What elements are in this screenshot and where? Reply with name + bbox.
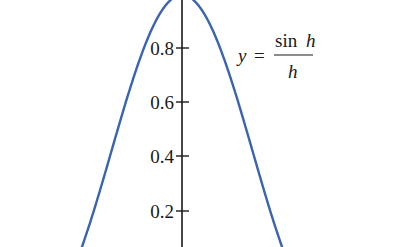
equation-equals: = <box>254 45 265 66</box>
equation-label: y = sin h h <box>236 30 315 82</box>
tick-label-0-6: 0.6 <box>150 92 174 113</box>
tick-label-0-4: 0.4 <box>150 146 174 167</box>
numerator-fn: sin <box>275 30 298 51</box>
tick-label-0-8: 0.8 <box>150 38 174 59</box>
equation-numerator: sin h <box>275 30 315 51</box>
equation-lhs: y <box>236 45 247 66</box>
tick-label-0-2: 0.2 <box>150 201 174 222</box>
sinc-plot: 0.8 0.6 0.4 0.2 y = sin h h <box>0 0 400 247</box>
equation-denominator: h <box>288 61 298 82</box>
numerator-var: h <box>306 30 316 51</box>
